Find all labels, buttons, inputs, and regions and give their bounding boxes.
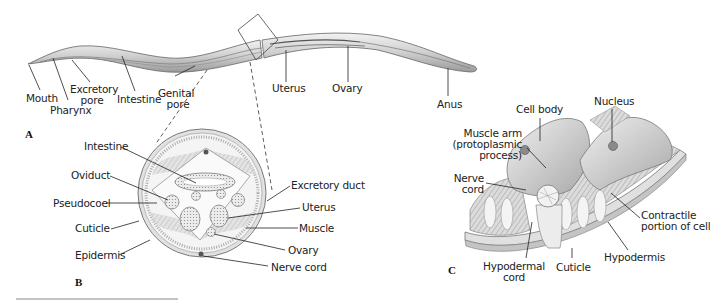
label-excretory-pore-line2: pore bbox=[70, 95, 114, 106]
label-muscle: Muscle bbox=[299, 223, 334, 234]
label-nerve-cord-c-line2: cord bbox=[440, 184, 484, 195]
label-contractile-line2: portion of cell bbox=[641, 221, 710, 232]
label-ovary-a: Ovary bbox=[332, 83, 362, 94]
label-pharynx: Pharynx bbox=[50, 105, 91, 116]
label-nerve-cord-b: Nerve cord bbox=[271, 262, 327, 273]
worm-body bbox=[28, 14, 477, 72]
panel-letter-b: B bbox=[75, 276, 82, 288]
label-uterus-b: Uterus bbox=[302, 202, 336, 213]
label-cuticle-b: Cuticle bbox=[75, 223, 110, 234]
label-hypodermal-cord-line2: cord bbox=[480, 272, 548, 283]
label-pseudocoel: Pseudocoel bbox=[53, 198, 110, 209]
label-genital-pore-line2: pore bbox=[158, 99, 198, 110]
label-cuticle-c: Cuticle bbox=[556, 262, 591, 273]
nematode-anatomy-figure: Mouth Pharynx Excretory pore Intestine G… bbox=[0, 0, 727, 306]
label-mouth: Mouth bbox=[26, 93, 58, 104]
label-intestine-a: Intestine bbox=[117, 94, 161, 105]
label-excretory-duct: Excretory duct bbox=[291, 180, 365, 191]
label-cell-body: Cell body bbox=[516, 104, 563, 115]
label-muscle-arm-line3: process) bbox=[440, 150, 522, 161]
cross-section bbox=[138, 129, 266, 257]
label-epidermis: Epidermis bbox=[75, 250, 125, 261]
label-nucleus: Nucleus bbox=[594, 96, 634, 107]
panel-letter-a: A bbox=[25, 128, 33, 140]
label-uterus-a: Uterus bbox=[272, 83, 306, 94]
label-anus: Anus bbox=[437, 99, 462, 110]
label-intestine-b: Intestine bbox=[84, 141, 128, 152]
label-oviduct: Oviduct bbox=[71, 170, 110, 181]
panel-letter-c: C bbox=[448, 264, 456, 276]
label-hypodermis: Hypodermis bbox=[604, 252, 665, 263]
label-ovary-b: Ovary bbox=[288, 245, 318, 256]
